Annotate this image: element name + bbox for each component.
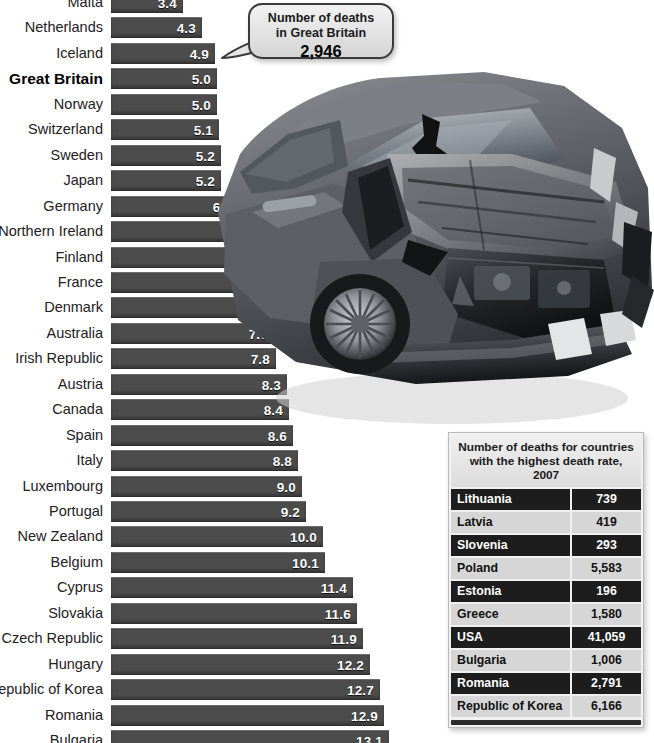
- bar-value-label: 3.4: [158, 0, 177, 14]
- bar-row-label: Spain: [66, 425, 103, 446]
- table-cell-deaths: 41,059: [572, 627, 641, 648]
- bar-value-label: 11.9: [331, 629, 357, 650]
- table-row: Bulgaria1,006: [451, 650, 641, 671]
- callout-value: 2,946: [250, 41, 392, 61]
- bar: 11.9: [111, 628, 363, 649]
- bar-row-label: Canada: [52, 399, 103, 420]
- great-britain-deaths-callout: Number of deaths in Great Britain 2,946: [248, 3, 394, 59]
- table-row: Latvia419: [451, 512, 641, 533]
- bar-wrapper: 11.9: [111, 628, 363, 649]
- crashed-car-photo: [212, 62, 654, 430]
- bar-row-label: Iceland: [56, 43, 103, 64]
- bar-wrapper: 4.9: [111, 43, 215, 64]
- bar-value-label: 10.0: [290, 527, 317, 548]
- bar-value-label: 13.1: [356, 731, 383, 743]
- bar-wrapper: 5.0: [111, 94, 217, 115]
- bar-row-label: Australia: [47, 323, 103, 344]
- bar-value-label: 4.3: [177, 18, 196, 39]
- infographic-page: Malta3.4Netherlands4.3Iceland4.9Great Br…: [0, 0, 654, 743]
- callout-line-2: in Great Britain: [250, 26, 392, 41]
- bar-value-label: 11.6: [325, 604, 351, 625]
- bar: 5.1: [111, 119, 219, 140]
- bar-row-label: Italy: [76, 450, 103, 471]
- table-cell-country: Bulgaria: [451, 650, 570, 671]
- table-row: Estonia196: [451, 581, 641, 602]
- table-cell-deaths: 196: [572, 581, 641, 602]
- bar: 5.0: [111, 68, 217, 89]
- bar-value-label: 5.0: [192, 69, 211, 90]
- bar-wrapper: 10.1: [111, 552, 325, 573]
- bar: 5.2: [111, 145, 221, 166]
- bar-wrapper: 12.9: [111, 705, 384, 726]
- bar: 13.1: [111, 730, 389, 743]
- bar-row-label: Finland: [55, 247, 103, 268]
- bar-row-label: New Zealand: [18, 526, 103, 547]
- bar-value-label: 9.0: [277, 477, 296, 498]
- bar-row-label: Sweden: [51, 145, 103, 166]
- bar-row-label: Hungary: [48, 654, 103, 675]
- bar-value-label: 8.8: [273, 451, 292, 472]
- bar-wrapper: 11.6: [111, 603, 357, 624]
- table-cell-country: USA: [451, 627, 570, 648]
- bar-value-label: 12.7: [347, 680, 374, 701]
- bar-value-label: 5.1: [194, 120, 213, 141]
- bar: 12.2: [111, 654, 370, 675]
- bar-wrapper: 10.0: [111, 526, 323, 547]
- bar-row-label: Great Britain: [9, 68, 103, 89]
- bar: 4.9: [111, 43, 215, 64]
- bar-wrapper: 9.0: [111, 476, 302, 497]
- bar-value-label: 4.9: [190, 44, 209, 65]
- bar-wrapper: 9.2: [111, 501, 306, 522]
- bar-row-label: Bulgaria: [50, 730, 103, 743]
- bar-wrapper: 12.2: [111, 654, 370, 675]
- bar: 11.4: [111, 577, 353, 598]
- bar: 10.1: [111, 552, 325, 573]
- bar-wrapper: 5.0: [111, 68, 217, 89]
- callout-line-1: Number of deaths: [250, 11, 392, 26]
- table-footer-bar: [451, 720, 641, 725]
- bar-row-label: Austria: [58, 374, 103, 395]
- bar-wrapper: 11.4: [111, 577, 353, 598]
- bar-wrapper: 4.3: [111, 17, 202, 38]
- table-cell-country: Republic of Korea: [451, 696, 570, 717]
- table-cell-deaths: 5,583: [572, 558, 641, 579]
- bar: 4.3: [111, 17, 202, 38]
- bar-row-label: Switzerland: [28, 119, 103, 140]
- table-cell-country: Poland: [451, 558, 570, 579]
- bar-value-label: 5.0: [192, 95, 211, 116]
- bar: 9.2: [111, 501, 306, 522]
- table-cell-country: Lithuania: [451, 489, 570, 510]
- bar: 9.0: [111, 476, 302, 497]
- bar-wrapper: 5.2: [111, 170, 221, 191]
- bar-row-label: Netherlands: [25, 17, 103, 38]
- bar-row-label: Germany: [43, 196, 103, 217]
- bar-row-label: Japan: [63, 170, 103, 191]
- bar: 11.6: [111, 603, 357, 624]
- bar-row-label: Norway: [54, 94, 103, 115]
- table-row: Lithuania739: [451, 489, 641, 510]
- table-cell-deaths: 6,166: [572, 696, 641, 717]
- bar-row-label: Cyprus: [57, 577, 103, 598]
- bar-wrapper: 8.8: [111, 450, 298, 471]
- bar-row-label: Romania: [45, 705, 103, 726]
- table-cell-country: Latvia: [451, 512, 570, 533]
- bar-row-label: Slovakia: [48, 603, 103, 624]
- table-row: Romania2,791: [451, 673, 641, 694]
- bar-row-label: France: [58, 272, 103, 293]
- table-cell-deaths: 2,791: [572, 673, 641, 694]
- highest-death-rate-table: Number of deaths for countries with the …: [448, 432, 644, 728]
- bar-wrapper: 5.2: [111, 145, 221, 166]
- table-cell-deaths: 419: [572, 512, 641, 533]
- bar-row-label: Republic of Korea: [0, 679, 103, 700]
- table-body: Lithuania739Latvia419Slovenia293Poland5,…: [451, 489, 641, 717]
- table-cell-deaths: 739: [572, 489, 641, 510]
- bar-value-label: 11.4: [321, 578, 347, 599]
- bar-row-label: Czech Republic: [1, 628, 103, 649]
- bar-row-label: Malta: [68, 0, 103, 13]
- bar: 12.7: [111, 679, 380, 700]
- bar: 8.8: [111, 450, 298, 471]
- table-cell-country: Romania: [451, 673, 570, 694]
- bar: 3.4: [111, 0, 183, 13]
- bar-wrapper: 5.1: [111, 119, 219, 140]
- bar-wrapper: 12.7: [111, 679, 380, 700]
